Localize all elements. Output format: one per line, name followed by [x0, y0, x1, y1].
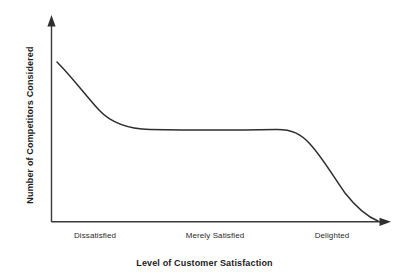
x-tick-label-dissatisfied: Dissatisfied [74, 231, 116, 241]
y-axis-title: Number of Competitors Considered [25, 46, 35, 203]
competitors-considered-curve [57, 62, 378, 221]
x-tick-label-delighted: Delighted [315, 231, 350, 241]
chart-container: Dissatisfied Merely Satisfied Delighted … [0, 0, 409, 277]
x-tick-label-merely-satisfied: Merely Satisfied [186, 231, 245, 241]
x-axis-title: Level of Customer Satisfaction [0, 258, 409, 268]
y-axis-arrow-icon [47, 15, 55, 27]
x-axis-arrow-icon [380, 218, 392, 226]
